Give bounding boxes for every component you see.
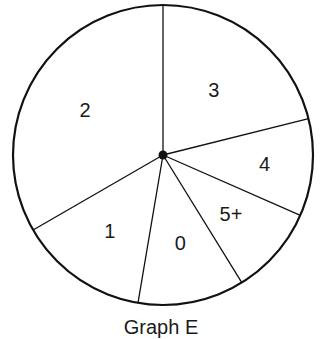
- slice-label: 2: [79, 99, 90, 121]
- center-dot: [159, 151, 168, 160]
- slice-label: 5+: [220, 203, 243, 225]
- slice-label: 4: [259, 153, 270, 175]
- slice-label: 3: [208, 79, 219, 101]
- slice-label: 0: [175, 232, 186, 254]
- chart-caption: Graph E: [0, 316, 322, 339]
- slice-label: 1: [104, 220, 115, 242]
